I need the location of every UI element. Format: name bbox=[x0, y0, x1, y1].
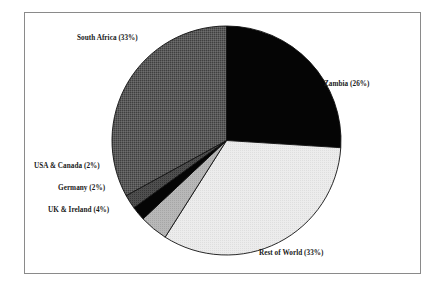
pie-label-usa-canada: USA & Canada (2%) bbox=[34, 163, 100, 170]
pie-label-germany: Germany (2%) bbox=[58, 185, 105, 192]
pie-label-uk-ireland: UK & Ireland (4%) bbox=[48, 207, 109, 214]
pie-graphic bbox=[0, 0, 444, 288]
pie-label-south-africa: South Africa (33%) bbox=[77, 35, 138, 42]
pie-chart-figure: South Africa (33%) Zambia (26%) USA & Ca… bbox=[0, 0, 444, 288]
pie-label-rest-of-world: Rest of World (33%) bbox=[259, 250, 324, 257]
pie-slices bbox=[112, 26, 341, 255]
pie-label-zambia: Zambia (26%) bbox=[324, 81, 370, 88]
